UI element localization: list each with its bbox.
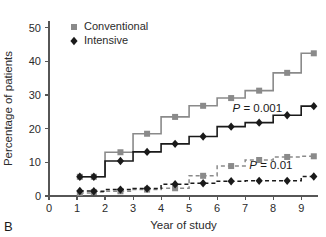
y-tick-label-20: 20 — [29, 123, 41, 135]
x-axis-title: Year of study — [150, 219, 217, 231]
p-value-annotation-0: P = 0.001 — [233, 102, 283, 114]
x-tick-label-9: 9 — [298, 202, 304, 214]
y-tick-label-0: 0 — [35, 190, 41, 202]
panel-label: B — [4, 219, 13, 234]
marker-square — [284, 70, 290, 76]
x-tick-label-2: 2 — [102, 202, 108, 214]
p-value-text: = 0.01 — [257, 159, 293, 171]
figure-panel-b: 01020304050 0123456789 ConventionalInten… — [0, 0, 326, 237]
y-tick-label-10: 10 — [29, 156, 41, 168]
x-tick-label-5: 5 — [186, 202, 192, 214]
marker-square — [117, 149, 123, 155]
y-axis-title: Percentage of patients — [2, 51, 14, 166]
percentage-of-patients-step-chart: 01020304050 0123456789 ConventionalInten… — [0, 0, 326, 237]
marker-square — [256, 88, 262, 94]
legend-label-conventional: Conventional — [84, 20, 148, 32]
marker-square — [228, 163, 234, 169]
x-tick-label-3: 3 — [130, 202, 136, 214]
x-tick-label-6: 6 — [214, 202, 220, 214]
x-tick-label-1: 1 — [74, 202, 80, 214]
y-tick-label-40: 40 — [29, 55, 41, 67]
marker-square — [144, 131, 150, 137]
marker-square — [311, 153, 317, 159]
legend-label-intensive: Intensive — [84, 34, 128, 46]
y-tick-label-50: 50 — [29, 22, 41, 34]
y-tick-label-30: 30 — [29, 89, 41, 101]
marker-square — [200, 173, 206, 179]
p-value-annotation-1: P = 0.01 — [249, 159, 292, 171]
x-tick-label-8: 8 — [270, 202, 276, 214]
x-tick-label-7: 7 — [242, 202, 248, 214]
p-value-text: = 0.001 — [240, 102, 282, 114]
marker-square — [228, 95, 234, 101]
legend-marker-square — [71, 24, 77, 30]
marker-square — [311, 50, 317, 56]
marker-square — [172, 114, 178, 120]
x-tick-label-4: 4 — [158, 202, 164, 214]
x-tick-label-0: 0 — [46, 202, 52, 214]
marker-square — [200, 103, 206, 109]
